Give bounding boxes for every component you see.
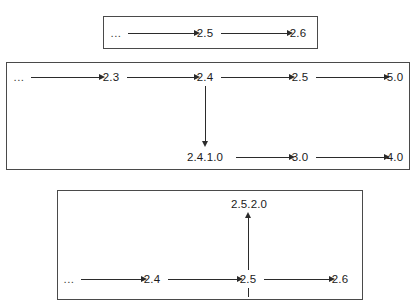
node-b1-2-5: 2.5 bbox=[197, 27, 213, 40]
edge-b2-2-5-to-5-0 bbox=[316, 77, 386, 78]
edge-b1-2-5-to-2-6 bbox=[221, 33, 289, 34]
node-b2-2-3: 2.3 bbox=[103, 71, 119, 84]
node-b1-ellipsis: ... bbox=[110, 27, 121, 40]
arrowhead-b2-to-2-4-1-0 bbox=[202, 141, 208, 147]
edge-b2-2-4-1-0-to-3-0 bbox=[236, 157, 291, 158]
edge-b2-3-0-to-4-0 bbox=[316, 157, 386, 158]
node-b2-2-5: 2.5 bbox=[292, 71, 308, 84]
edge-b3-2-5-to-2-5-2-0 bbox=[248, 217, 249, 270]
node-b2-5-0: 5.0 bbox=[387, 71, 403, 84]
edge-b1-ellipsis-to-2-5 bbox=[128, 33, 196, 34]
node-b2-ellipsis: ... bbox=[13, 71, 24, 84]
node-b3-2-6: 2.6 bbox=[332, 273, 348, 286]
edge-b3-2-4-to-2-5 bbox=[168, 279, 239, 280]
node-b2-4-0: 4.0 bbox=[387, 151, 403, 164]
edge-b2-2-4-to-2-4-1-0 bbox=[205, 86, 206, 142]
edge-b3-2-5-to-2-6 bbox=[264, 279, 331, 280]
edge-b2-2-3-to-2-4 bbox=[127, 77, 196, 78]
node-b3-ellipsis: ... bbox=[63, 273, 74, 286]
node-b2-2-4-1-0: 2.4.1.0 bbox=[187, 151, 223, 164]
node-b3-2-4: 2.4 bbox=[144, 273, 160, 286]
edge-b3-2-5-downward-stub bbox=[248, 288, 249, 297]
node-b1-2-6: 2.6 bbox=[290, 27, 306, 40]
graph-box-3 bbox=[57, 190, 363, 300]
edge-b3-ellipsis-to-2-4 bbox=[81, 279, 143, 280]
node-b2-3-0: 3.0 bbox=[292, 151, 308, 164]
node-b3-2-5-2-0: 2.5.2.0 bbox=[231, 198, 267, 211]
node-b2-2-4: 2.4 bbox=[197, 71, 213, 84]
edge-b2-2-4-to-2-5 bbox=[221, 77, 291, 78]
edge-b2-ellipsis-to-2-3 bbox=[31, 77, 101, 78]
node-b3-2-5: 2.5 bbox=[240, 273, 256, 286]
